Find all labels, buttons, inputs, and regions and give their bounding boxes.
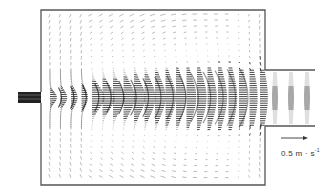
- chamber-walls: [41, 10, 315, 185]
- velocity-vectors: [49, 14, 310, 178]
- inlet-jet: [18, 92, 41, 103]
- scale-arrow: [281, 136, 308, 140]
- scale-unit: m · s: [296, 149, 315, 158]
- scale-value: 0.5: [281, 149, 293, 158]
- scale-label: 0.5 m · s-1: [281, 147, 320, 158]
- vector-field-figure: [0, 0, 331, 193]
- scale-unit-exponent: -1: [315, 147, 320, 153]
